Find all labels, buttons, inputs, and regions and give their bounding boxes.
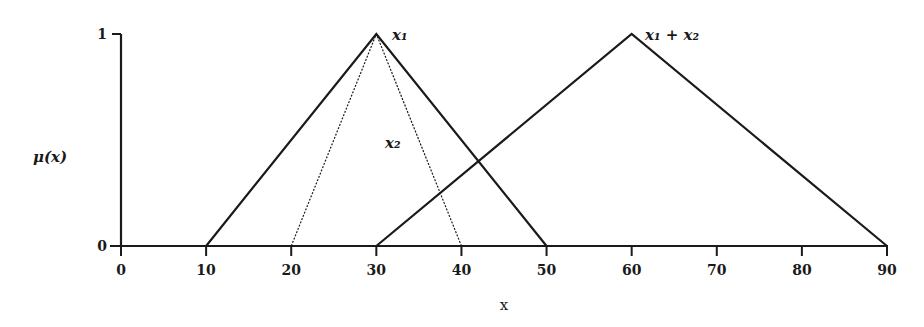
y-tick-label: 0 (97, 238, 107, 254)
x-tick-label: 70 (707, 262, 727, 278)
series-label-x2: x₂ (384, 134, 401, 152)
x-tick-label: 60 (622, 262, 642, 278)
series-label-x1-plus-x2: x₁ + x₂ (644, 26, 699, 44)
y-axis-title: μ(x) (33, 148, 67, 166)
x-tick-label: 80 (792, 262, 812, 278)
x-tick-label: 0 (116, 262, 126, 278)
axes (110, 34, 888, 246)
series-line-x1-plus-x2 (376, 34, 887, 246)
x-tick-label: 90 (877, 262, 897, 278)
x-tick-label: 40 (452, 262, 472, 278)
series-line-x2 (291, 34, 461, 246)
x-axis-title: x (500, 296, 509, 314)
series-lines (206, 34, 887, 246)
x-ticks: 0102030405060708090 (116, 246, 897, 278)
y-tick-labels: 01 (97, 26, 107, 254)
series-line-x1 (206, 34, 546, 246)
membership-function-chart: 0102030405060708090 01 x μ(x) x₁ x₂ x₁ +… (0, 0, 924, 327)
x-tick-label: 50 (537, 262, 557, 278)
series-label-x1: x₁ (391, 26, 408, 44)
x-tick-label: 30 (367, 262, 387, 278)
x-tick-label: 10 (196, 262, 216, 278)
y-tick-label: 1 (97, 26, 107, 42)
x-tick-label: 20 (281, 262, 301, 278)
